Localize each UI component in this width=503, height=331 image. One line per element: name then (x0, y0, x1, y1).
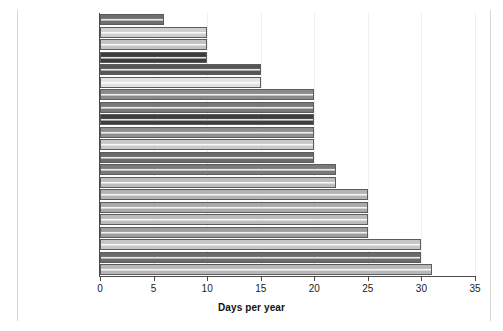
x-tick-label-15: 15 (246, 283, 276, 294)
figure-frame-left (17, 10, 18, 321)
bar-brazil (100, 177, 336, 188)
x-tick-mark-15 (261, 276, 262, 281)
bar-colombia (100, 77, 261, 88)
bar-mexico (100, 14, 164, 25)
chart-row: Mexico (100, 14, 475, 25)
bar-sweden (100, 202, 368, 213)
bar-chart-figure: MexicoUnited StatesJapanCanadaNew Zealan… (0, 0, 503, 331)
x-tick-mark-35 (475, 276, 476, 281)
bar-ireland (100, 127, 314, 138)
bar-austria (100, 252, 421, 263)
x-tick-mark-20 (314, 276, 315, 281)
bar-france (100, 227, 368, 238)
chart-row: Norway (100, 214, 475, 225)
chart-row: Spain (100, 164, 475, 175)
chart-row: New Zealand (100, 64, 475, 75)
chart-row: Japan (100, 39, 475, 50)
chart-row: Ireland (100, 127, 475, 138)
x-tick-mark-5 (154, 276, 155, 281)
chart-row: Australia (100, 152, 475, 163)
bar-switzerland (100, 102, 314, 113)
bar-netherlands (100, 114, 314, 125)
bar-united-states (100, 27, 207, 38)
chart-row: Brazil (100, 177, 475, 188)
chart-row: France (100, 227, 475, 238)
chart-row: Sweden (100, 202, 475, 213)
x-tick-label-25: 25 (353, 283, 383, 294)
chart-row: Netherlands (100, 114, 475, 125)
x-tick-label-0: 0 (85, 283, 115, 294)
bar-belgium (100, 139, 314, 150)
chart-row: Finland (100, 239, 475, 250)
bar-denmark (100, 264, 432, 275)
x-tick-mark-25 (368, 276, 369, 281)
x-tick-label-20: 20 (299, 283, 329, 294)
chart-row: Switzerland (100, 102, 475, 113)
x-tick-mark-0 (100, 276, 101, 281)
bar-japan (100, 39, 207, 50)
gridline-x-35 (475, 13, 477, 276)
bar-australia (100, 152, 314, 163)
plot-area: MexicoUnited StatesJapanCanadaNew Zealan… (100, 13, 475, 276)
x-axis-label: Days per year (0, 302, 503, 313)
chart-row: Germany (100, 189, 475, 200)
bar-new-zealand (100, 64, 261, 75)
bar-finland (100, 239, 421, 250)
bar-norway (100, 214, 368, 225)
bar-germany (100, 189, 368, 200)
x-tick-mark-10 (207, 276, 208, 281)
x-tick-label-5: 5 (139, 283, 169, 294)
x-tick-label-35: 35 (460, 283, 490, 294)
chart-row: Belgium (100, 139, 475, 150)
x-axis-line (99, 276, 476, 277)
x-tick-label-30: 30 (406, 283, 436, 294)
chart-row: Canada (100, 52, 475, 63)
x-tick-label-10: 10 (192, 283, 222, 294)
chart-row: UK (100, 89, 475, 100)
x-tick-mark-30 (421, 276, 422, 281)
figure-frame-right (490, 10, 491, 321)
chart-row: Denmark (100, 264, 475, 275)
chart-row: Colombia (100, 77, 475, 88)
bar-spain (100, 164, 336, 175)
chart-row: United States (100, 27, 475, 38)
bar-uk (100, 89, 314, 100)
chart-row: Austria (100, 252, 475, 263)
bar-canada (100, 52, 207, 63)
